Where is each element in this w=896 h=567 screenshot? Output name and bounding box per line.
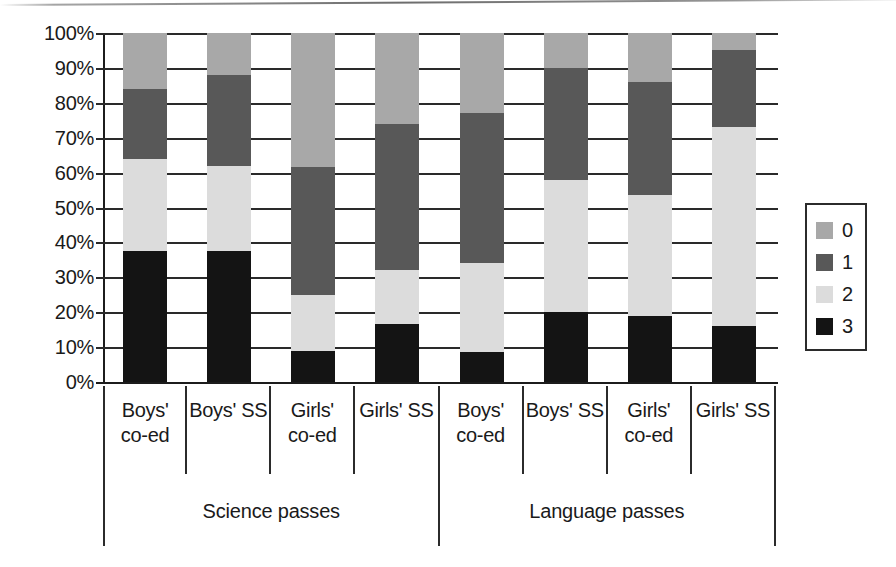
x-axis-category-label: Girls' SS [692, 386, 776, 474]
bar-segment-0 [460, 33, 504, 113]
group-label: Science passes [103, 474, 440, 546]
x-axis-category-label: Girls'co-ed [608, 386, 692, 474]
legend-label: 0 [842, 220, 853, 240]
bar-segment-3 [291, 351, 335, 382]
bar-column [291, 33, 335, 382]
bar-column [628, 33, 672, 382]
legend-swatch-1 [816, 254, 833, 271]
y-axis-tick-label: 70% [18, 128, 94, 148]
x-axis-category-labels: Boys'co-edBoys' SSGirls'co-edGirls' SSBo… [103, 386, 776, 474]
bar-segment-0 [628, 33, 672, 82]
legend-swatch-0 [816, 222, 833, 239]
bar-segment-2 [460, 263, 504, 352]
y-axis-tick-label: 60% [18, 163, 94, 183]
y-axis-tick-label: 50% [18, 198, 94, 218]
x-axis-category-label: Boys' SS [524, 386, 608, 474]
category-label-line-2: co-ed [608, 423, 690, 448]
y-axis-tick-label: 20% [18, 302, 94, 322]
y-axis-tick-label: 10% [18, 337, 94, 357]
bar-stack [291, 33, 335, 382]
bars-layer [103, 33, 776, 382]
y-axis-tick-label: 30% [18, 267, 94, 287]
axis-baseline [96, 382, 778, 384]
bar-stack [460, 33, 504, 382]
category-label-line-1: Boys' SS [524, 398, 606, 423]
x-axis-group-labels: Science passesLanguage passes [103, 474, 776, 546]
bar-segment-1 [544, 68, 588, 180]
bar-segment-1 [207, 75, 251, 166]
x-axis-category-label: Boys'co-ed [440, 386, 524, 474]
bar-segment-1 [123, 89, 167, 159]
category-label-line-1: Girls' [608, 398, 690, 423]
bar-segment-0 [712, 33, 756, 50]
bar-segment-2 [628, 195, 672, 315]
y-axis-tick-label: 40% [18, 232, 94, 252]
bar-segment-0 [375, 33, 419, 124]
legend-item: 2 [816, 278, 865, 310]
group-label: Language passes [440, 474, 777, 546]
bar-segment-3 [628, 316, 672, 382]
legend-label: 2 [842, 284, 853, 304]
stacked-bar-chart: 100%90%80%70%60%50%40%30%20%10%0% Boys'c… [0, 0, 896, 567]
legend-item: 1 [816, 246, 865, 278]
x-axis-category-label: Girls'co-ed [271, 386, 355, 474]
x-axis-category-label: Girls' SS [355, 386, 439, 474]
bar-segment-3 [712, 326, 756, 382]
legend-swatch-3 [816, 318, 833, 335]
bar-stack [628, 33, 672, 382]
x-axis-category-label: Boys' SS [187, 386, 271, 474]
y-axis-tick-label: 0% [18, 372, 94, 392]
y-axis-tick-label: 100% [18, 23, 94, 43]
bar-segment-2 [207, 166, 251, 252]
legend-item: 3 [816, 310, 865, 342]
bar-segment-3 [460, 352, 504, 382]
bar-segment-3 [375, 324, 419, 382]
bar-segment-1 [291, 167, 335, 294]
group-label-text: Language passes [440, 500, 775, 522]
bar-segment-0 [123, 33, 167, 89]
bar-segment-2 [123, 159, 167, 251]
bar-stack [123, 33, 167, 382]
legend-label: 1 [842, 252, 853, 272]
bar-segment-0 [207, 33, 251, 75]
category-label-line-2: co-ed [440, 423, 522, 448]
bar-column [123, 33, 167, 382]
category-label-line-1: Boys' [440, 398, 522, 423]
y-axis-tick-label: 90% [18, 58, 94, 78]
category-label-line-1: Girls' [271, 398, 353, 423]
bar-segment-1 [375, 124, 419, 271]
y-axis: 100%90%80%70%60%50%40%30%20%10%0% [18, 26, 94, 382]
bar-column [375, 33, 419, 382]
bar-stack [712, 33, 756, 382]
bar-column [712, 33, 756, 382]
bar-segment-3 [207, 251, 251, 382]
bar-column [460, 33, 504, 382]
bar-segment-2 [291, 295, 335, 351]
bar-segment-1 [628, 82, 672, 195]
bar-segment-3 [123, 251, 167, 382]
bar-segment-2 [712, 127, 756, 326]
category-label-line-2: co-ed [105, 423, 185, 448]
category-label-line-2: co-ed [271, 423, 353, 448]
bar-column [544, 33, 588, 382]
bar-stack [207, 33, 251, 382]
bar-column [207, 33, 251, 382]
x-axis-category-label: Boys'co-ed [103, 386, 187, 474]
category-label-line-1: Boys' SS [187, 398, 269, 423]
y-axis-tick-label: 80% [18, 93, 94, 113]
bar-segment-2 [375, 270, 419, 324]
legend-label: 3 [842, 316, 853, 336]
bar-segment-1 [712, 50, 756, 127]
legend-item: 0 [816, 214, 865, 246]
bar-segment-0 [291, 33, 335, 167]
category-label-line-1: Boys' [105, 398, 185, 423]
legend-swatch-2 [816, 286, 833, 303]
bar-segment-0 [544, 33, 588, 68]
bar-segment-1 [460, 113, 504, 263]
group-label-text: Science passes [105, 500, 438, 522]
bar-segment-3 [544, 312, 588, 382]
category-label-line-1: Girls' SS [355, 398, 437, 423]
legend: 0123 [805, 203, 867, 351]
category-label-line-1: Girls' SS [692, 398, 774, 423]
bar-segment-2 [544, 180, 588, 313]
